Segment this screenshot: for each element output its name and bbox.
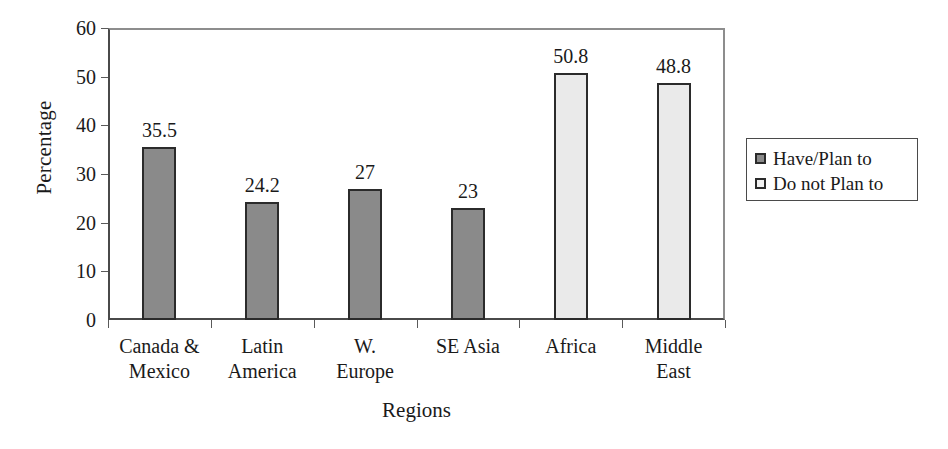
x-tick-mark	[519, 320, 520, 328]
bar-value-label: 50.8	[526, 46, 616, 66]
legend-label: Have/Plan to	[773, 149, 872, 168]
legend-label: Do not Plan to	[773, 174, 883, 193]
bar-value-label: 27	[320, 162, 410, 182]
bar	[142, 147, 176, 320]
bar-value-label: 35.5	[114, 120, 204, 140]
legend-swatch-icon	[755, 178, 766, 189]
bar	[657, 83, 691, 320]
y-tick-label: 10	[52, 261, 96, 281]
y-tick-mark	[101, 77, 108, 78]
x-axis-title: Regions	[0, 398, 833, 423]
y-tick-label: 30	[52, 164, 96, 184]
y-tick-mark	[101, 271, 108, 272]
x-tick-mark	[725, 320, 726, 328]
y-tick-mark	[101, 174, 108, 175]
legend: Have/Plan toDo not Plan to	[746, 138, 918, 201]
bar-value-label: 23	[423, 181, 513, 201]
x-tick-mark	[314, 320, 315, 328]
y-tick-label: 50	[52, 67, 96, 87]
x-tick-mark	[417, 320, 418, 328]
bar-value-label: 48.8	[629, 56, 719, 76]
bar	[245, 202, 279, 320]
x-tick-mark	[622, 320, 623, 328]
y-tick-label: 20	[52, 213, 96, 233]
y-tick-mark	[101, 125, 108, 126]
legend-item: Do not Plan to	[755, 171, 917, 196]
x-tick-label: Middle East	[604, 334, 744, 384]
y-tick-mark	[101, 223, 108, 224]
x-tick-mark	[211, 320, 212, 328]
y-tick-label: 40	[52, 115, 96, 135]
bar	[348, 189, 382, 320]
legend-item: Have/Plan to	[755, 146, 917, 171]
y-tick-label: 60	[52, 18, 96, 38]
y-tick-label: 0	[52, 310, 96, 330]
x-tick-mark	[108, 320, 109, 328]
bar	[554, 73, 588, 320]
y-tick-mark	[101, 28, 108, 29]
bar	[451, 208, 485, 320]
bar-chart: Percentage 6050403020100 35.524.2272350.…	[0, 0, 948, 449]
bar-value-label: 24.2	[217, 175, 307, 195]
legend-swatch-icon	[755, 153, 766, 164]
plot-area: 35.524.2272350.848.8	[108, 28, 725, 320]
